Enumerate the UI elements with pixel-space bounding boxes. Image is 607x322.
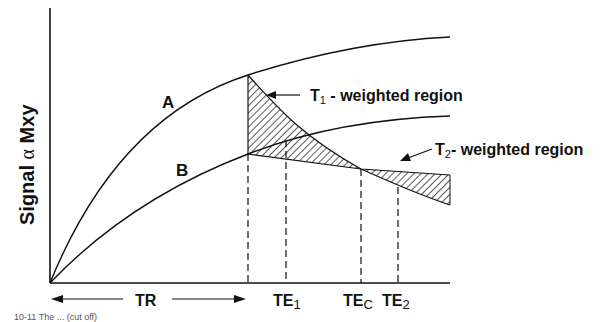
tr-label: TR (135, 292, 157, 309)
tr-left-arrowhead-icon (51, 295, 63, 303)
tr-right-arrowhead-icon (234, 295, 246, 303)
curve-b-label: B (176, 161, 188, 180)
t2-region-label: T2- weighted region (435, 141, 583, 160)
t2-arrowhead-icon (400, 153, 411, 161)
figure-caption: 10-11 The ... (cut off) (14, 312, 97, 322)
t2-arrow-line (408, 149, 432, 158)
y-axis-label: Signal α Mxy (16, 104, 38, 225)
tec-label: TEC (343, 292, 373, 312)
te1-label: TE1 (273, 292, 301, 312)
t1-region-label: T1 - weighted region (310, 87, 463, 106)
te2-label: TE2 (382, 292, 410, 312)
curve-a (50, 37, 450, 283)
curve-a-label: A (162, 93, 174, 112)
